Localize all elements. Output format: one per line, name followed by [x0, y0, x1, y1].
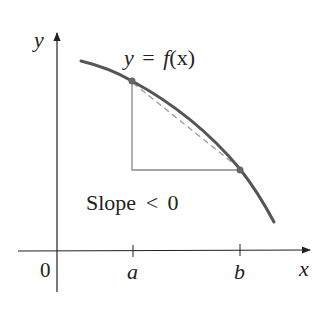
slope-diagram: y x 0 a b y = f(x) Slope < 0	[0, 0, 331, 310]
origin-label: 0	[40, 258, 51, 282]
point-b	[237, 167, 244, 174]
point-a	[129, 78, 136, 85]
x-axis	[18, 250, 310, 251]
tick-label-a: a	[127, 259, 138, 284]
x-axis-label: x	[298, 256, 309, 281]
tick-label-b: b	[234, 259, 245, 284]
slope-triangle	[132, 81, 240, 170]
y-axis-label: y	[32, 27, 44, 52]
slope-annotation: Slope < 0	[86, 190, 179, 215]
secant-line	[133, 83, 238, 167]
curve-label: y = f(x)	[122, 45, 195, 70]
